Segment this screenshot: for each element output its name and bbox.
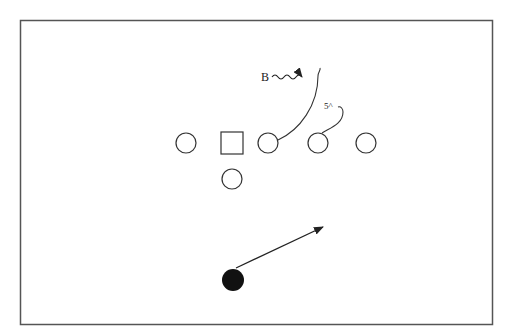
route-guard-hook [318, 68, 320, 76]
route-tackle-hook [338, 107, 343, 112]
route-guard-curve [278, 76, 318, 140]
route-tackle-curve [322, 112, 343, 133]
motion-wavy-arrow [272, 75, 302, 79]
player-right-guard [258, 133, 278, 153]
player-defender [222, 269, 244, 291]
player-tight-end [356, 133, 376, 153]
route-label: 5^ [324, 101, 334, 111]
diagram-frame [21, 21, 493, 325]
player-center [221, 132, 243, 154]
defender-arrow [236, 227, 323, 268]
play-diagram: B 5^ [0, 0, 514, 336]
motion-label: B [261, 70, 269, 84]
player-quarterback [222, 169, 242, 189]
player-right-tackle [308, 133, 328, 153]
player-left-tackle [176, 133, 196, 153]
